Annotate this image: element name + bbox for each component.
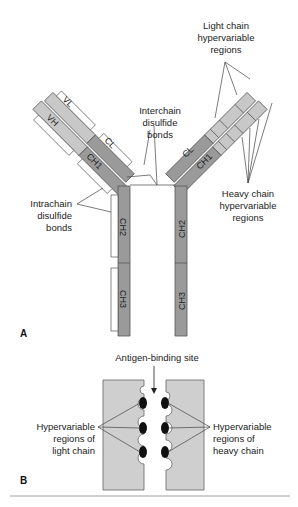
svg-text:regions: regions <box>210 44 241 55</box>
left-heavy-stem <box>111 186 130 336</box>
svg-text:Light chain: Light chain <box>203 20 249 31</box>
hv-dots <box>139 397 169 458</box>
svg-text:light chain: light chain <box>52 445 95 456</box>
heavy-chain-block <box>166 380 204 490</box>
svg-text:regions: regions <box>232 212 263 223</box>
svg-text:disulfide: disulfide <box>37 210 72 221</box>
right-heavy-stem <box>175 186 187 336</box>
svg-text:regions of: regions of <box>53 433 95 444</box>
intrachain-label: Intrachain disulfide bonds <box>30 198 72 233</box>
segment-ch2-left: CH2 <box>118 218 128 236</box>
svg-text:Heavy chain: Heavy chain <box>222 188 274 199</box>
arrow-down-icon <box>151 388 157 394</box>
segment-ch3-left: CH3 <box>118 290 128 308</box>
antibody-diagram: VL VH CL CH1 CL CH1 CH2 CH3 CH2 CH3 <box>0 0 298 507</box>
svg-text:regions of: regions of <box>213 433 255 444</box>
svg-text:hypervariable: hypervariable <box>197 32 254 43</box>
heavy-hv-label: Heavy chain hypervariable regions <box>219 188 276 223</box>
svg-text:bonds: bonds <box>46 222 72 233</box>
heavy-hv-b-label: Hypervariable regions of heavy chain <box>213 421 272 456</box>
svg-text:Hypervariable: Hypervariable <box>36 421 95 432</box>
svg-text:Interchain: Interchain <box>139 105 181 116</box>
antigen-site-label: Antigen-binding site <box>115 352 198 363</box>
svg-text:Hypervariable: Hypervariable <box>213 421 272 432</box>
light-chain-block <box>103 380 144 490</box>
panel-a-letter: A <box>20 328 27 339</box>
svg-text:bonds: bonds <box>147 129 173 140</box>
light-hv-b-label: Hypervariable regions of light chain <box>36 421 95 456</box>
segment-ch2-right: CH2 <box>177 220 187 238</box>
svg-text:heavy chain: heavy chain <box>213 445 264 456</box>
svg-text:hypervariable: hypervariable <box>219 200 276 211</box>
segment-ch3-right: CH3 <box>177 292 187 310</box>
light-hv-label: Light chain hypervariable regions <box>197 20 254 55</box>
svg-text:Intrachain: Intrachain <box>30 198 72 209</box>
svg-text:disulfide: disulfide <box>143 117 178 128</box>
panel-b-letter: B <box>20 475 27 486</box>
interchain-label: Interchain disulfide bonds <box>139 105 181 140</box>
